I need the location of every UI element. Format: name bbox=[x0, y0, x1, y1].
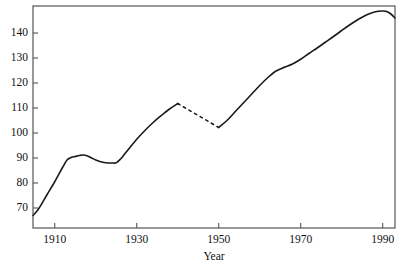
x-tick-label: 1990 bbox=[363, 234, 403, 246]
x-tick-label: 1970 bbox=[281, 234, 321, 246]
data-series-group bbox=[33, 11, 395, 216]
y-tick-label: 110 bbox=[2, 102, 28, 114]
y-tick-label: 140 bbox=[2, 27, 28, 39]
y-tick-label: 90 bbox=[2, 152, 28, 164]
axes-frame bbox=[33, 6, 395, 228]
line-chart-plot bbox=[0, 0, 408, 265]
plot-frame bbox=[33, 6, 395, 228]
y-tick-label: 80 bbox=[2, 177, 28, 189]
x-axis-title: Year bbox=[174, 251, 254, 263]
y-tick-label: 70 bbox=[2, 202, 28, 214]
chart-container: 708090100110120130140 191019301950197019… bbox=[0, 0, 408, 265]
y-axis-tick-marks bbox=[33, 33, 38, 208]
x-axis-tick-marks bbox=[55, 223, 383, 228]
series-line-main-solid-early bbox=[33, 104, 178, 216]
series-line-interpolated-gap bbox=[178, 104, 219, 128]
y-tick-label: 100 bbox=[2, 127, 28, 139]
y-tick-label: 130 bbox=[2, 52, 28, 64]
x-tick-label: 1930 bbox=[117, 234, 157, 246]
y-tick-label: 120 bbox=[2, 77, 28, 89]
series-line-main-solid-late bbox=[219, 11, 395, 128]
x-tick-label: 1910 bbox=[35, 234, 75, 246]
x-tick-label: 1950 bbox=[199, 234, 239, 246]
